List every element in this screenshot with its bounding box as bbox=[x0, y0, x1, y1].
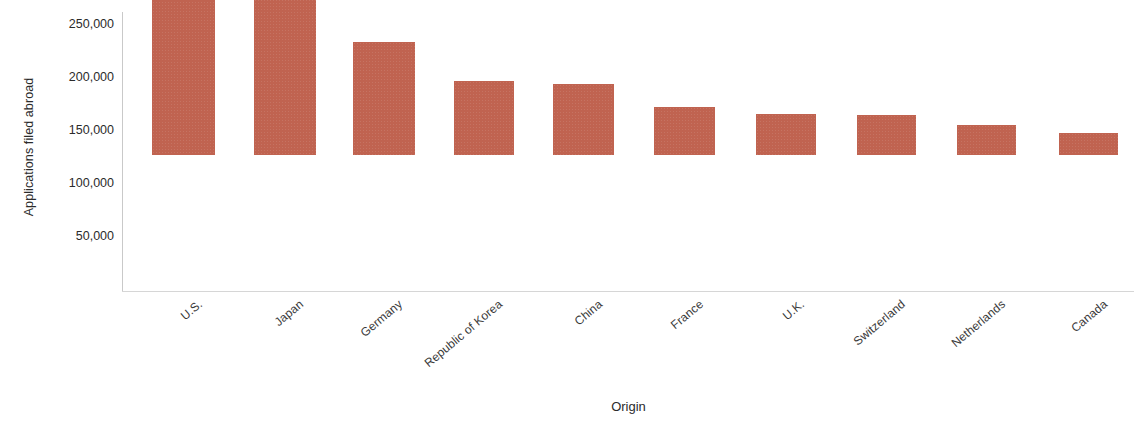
x-axis-line bbox=[122, 291, 1134, 292]
bar bbox=[957, 125, 1016, 155]
bar bbox=[454, 81, 514, 155]
x-axis-tick-label: Republic of Korea bbox=[422, 297, 505, 370]
bar bbox=[553, 84, 614, 155]
x-axis-tick-label: Japan bbox=[272, 297, 306, 329]
bar bbox=[654, 107, 715, 155]
x-axis-tick-label: Canada bbox=[1068, 297, 1110, 335]
x-axis-tick-label: U.S. bbox=[177, 297, 204, 323]
bar bbox=[254, 0, 316, 155]
bar bbox=[756, 114, 816, 155]
bar bbox=[353, 42, 415, 155]
bar bbox=[857, 115, 916, 155]
bar-chart: Applications filed abroad 50,000100,0001… bbox=[0, 0, 1141, 427]
x-axis-tick-label: Netherlands bbox=[948, 297, 1007, 350]
x-axis-tick-label: France bbox=[667, 297, 705, 332]
x-axis-tick-label: Switzerland bbox=[850, 297, 907, 348]
x-axis-tick-label: U.K. bbox=[780, 297, 807, 323]
x-axis-tick-label: China bbox=[571, 297, 604, 328]
bar bbox=[152, 0, 215, 155]
x-axis-title: Origin bbox=[0, 399, 1141, 414]
plot-area bbox=[0, 0, 1141, 291]
x-axis-tick-label: Germany bbox=[358, 297, 405, 340]
bar bbox=[1059, 133, 1118, 155]
